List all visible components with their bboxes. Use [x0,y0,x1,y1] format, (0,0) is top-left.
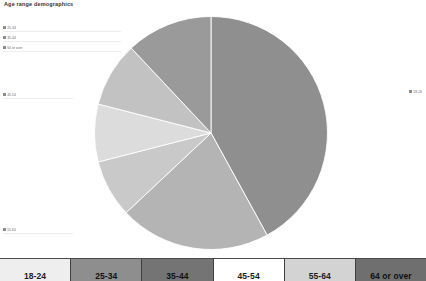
key-cell-label: 35-44 [166,271,188,281]
axis-stub-1: 35-44 [3,36,16,41]
axis-stub-0: 25-34 [3,26,16,31]
axis-stub-label: 45-54 [7,93,16,97]
axis-stub-4: 55-64 [3,228,16,233]
axis-stub-label: 35-44 [7,36,16,40]
key-cell-45-54[interactable]: 45-54 [214,259,285,281]
key-cell-64-or-over[interactable]: 64 or over [356,259,426,281]
axis-stub-label: 64 or over [7,46,22,50]
axis-stub-2: 64 or over [3,46,22,51]
axis-stub-label: 25-34 [7,26,16,30]
color-key-table: 18-2425-3435-4445-5455-6464 or over [0,258,426,281]
key-cell-label: 45-54 [237,271,259,281]
axis-stub-label: 55-64 [7,228,16,232]
color-swatch-icon [3,228,6,231]
key-cell-25-34[interactable]: 25-34 [71,259,142,281]
page-title: Age range demographics [4,1,73,7]
pie-chart-svg [94,16,328,250]
key-cell-label: 55-64 [309,271,331,281]
right-legend-stub-label: 18-24 [413,90,422,94]
key-cell-label: 25-34 [95,271,117,281]
axis-rule [3,98,73,99]
axis-stub-3: 45-54 [3,93,16,98]
color-swatch-icon [3,36,6,39]
key-cell-55-64[interactable]: 55-64 [285,259,356,281]
key-cell-label: 64 or over [370,271,412,281]
color-swatch-icon [3,26,6,29]
right-legend-stub: 18-24 [409,90,422,94]
color-swatch-icon [409,90,412,93]
axis-rule [3,233,73,234]
pie-chart [94,16,328,250]
key-cell-18-24[interactable]: 18-24 [0,259,71,281]
key-cell-35-44[interactable]: 35-44 [142,259,213,281]
color-swatch-icon [3,93,6,96]
key-cell-label: 18-24 [24,271,46,281]
color-swatch-icon [3,46,6,49]
